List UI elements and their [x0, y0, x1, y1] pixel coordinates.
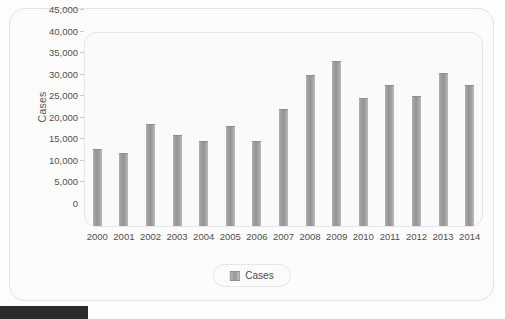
- y-axis-tick-label: 0: [32, 198, 78, 209]
- bar-slot: [111, 32, 138, 226]
- bar-slot: [403, 32, 430, 226]
- plot-area: [84, 32, 483, 226]
- chart-card: Cases 05,00010,00015,00020,00025,00030,0…: [9, 8, 494, 301]
- x-axis-labels: 2000200120022003200420052006200720082009…: [84, 231, 483, 247]
- y-axis-tick-label: 15,000: [32, 133, 78, 144]
- bar-slot: [190, 32, 217, 226]
- y-axis-tick-label: 35,000: [32, 47, 78, 58]
- bar-slot: [377, 32, 404, 226]
- bar-2002[interactable]: [146, 124, 155, 226]
- bar-2013[interactable]: [439, 73, 448, 226]
- bar-slot: [323, 32, 350, 226]
- x-axis-tick-label: 2002: [140, 231, 161, 242]
- bar-2005[interactable]: [226, 126, 235, 226]
- bar-slot: [164, 32, 191, 226]
- bar-2011[interactable]: [385, 85, 394, 226]
- x-axis-tick-label: 2009: [326, 231, 347, 242]
- x-axis-tick-label: 2012: [406, 231, 427, 242]
- chart-legend[interactable]: Cases: [212, 264, 290, 287]
- y-axis-tick-label: 40,000: [32, 25, 78, 36]
- x-axis-tick-label: 2010: [353, 231, 374, 242]
- y-axis-tick-mark: [80, 9, 84, 10]
- x-axis-tick-label: 2003: [167, 231, 188, 242]
- x-axis-tick-label: 2006: [246, 231, 267, 242]
- bar-slot: [217, 32, 244, 226]
- bar-slot: [350, 32, 377, 226]
- y-axis-tick-label: 5,000: [32, 176, 78, 187]
- y-axis-tick-label: 10,000: [32, 154, 78, 165]
- bar-slot: [456, 32, 483, 226]
- bar-slot: [137, 32, 164, 226]
- bar-slot: [430, 32, 457, 226]
- y-axis-labels: 05,00010,00015,00020,00025,00030,00035,0…: [30, 9, 78, 300]
- bar-2012[interactable]: [412, 96, 421, 226]
- x-axis-tick-label: 2005: [220, 231, 241, 242]
- bar-2000[interactable]: [93, 149, 102, 226]
- legend-label-cases: Cases: [245, 270, 273, 281]
- legend-swatch-cases: [229, 271, 239, 281]
- x-axis-tick-label: 2007: [273, 231, 294, 242]
- y-axis-tick-label: 20,000: [32, 111, 78, 122]
- x-axis-tick-label: 2013: [433, 231, 454, 242]
- bar-2009[interactable]: [332, 61, 341, 226]
- x-axis-tick-label: 2014: [459, 231, 480, 242]
- bar-slot: [244, 32, 271, 226]
- page-bottom-strip: [0, 306, 88, 319]
- bar-2010[interactable]: [359, 98, 368, 226]
- bar-2014[interactable]: [465, 85, 474, 226]
- bar-slot: [84, 32, 111, 226]
- x-axis-tick-label: 2001: [113, 231, 134, 242]
- bar-2007[interactable]: [279, 109, 288, 226]
- bar-2001[interactable]: [119, 153, 128, 226]
- x-axis-tick-label: 2000: [87, 231, 108, 242]
- y-axis-tick-label: 45,000: [32, 4, 78, 15]
- bar-2004[interactable]: [199, 141, 208, 226]
- page-background: Cases 05,00010,00015,00020,00025,00030,0…: [0, 0, 505, 319]
- bar-slot: [270, 32, 297, 226]
- y-axis-tick-label: 25,000: [32, 90, 78, 101]
- x-axis-tick-label: 2004: [193, 231, 214, 242]
- bar-2006[interactable]: [252, 141, 261, 226]
- bar-slot: [297, 32, 324, 226]
- y-axis-tick-label: 30,000: [32, 68, 78, 79]
- x-axis-tick-label: 2008: [300, 231, 321, 242]
- bar-2008[interactable]: [306, 75, 315, 226]
- x-axis-tick-label: 2011: [380, 231, 400, 242]
- bar-2003[interactable]: [173, 135, 182, 226]
